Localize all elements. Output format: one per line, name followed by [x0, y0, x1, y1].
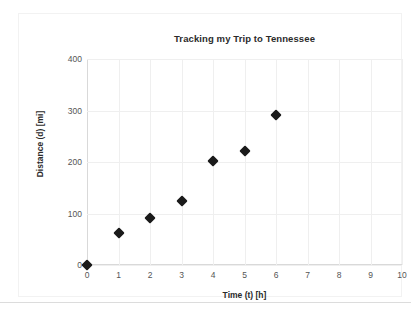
data-point[interactable]: [207, 156, 218, 167]
gridline-vertical: [371, 59, 372, 265]
x-tick-label: 5: [242, 270, 247, 280]
gridline-vertical: [245, 59, 246, 265]
x-tick-label: 10: [397, 270, 406, 280]
y-tick-label: 400: [68, 54, 82, 64]
data-point[interactable]: [81, 259, 92, 270]
data-point[interactable]: [239, 145, 250, 156]
gridline-vertical: [182, 59, 183, 265]
x-tick-label: 7: [305, 270, 310, 280]
gridline-vertical: [339, 59, 340, 265]
y-axis-tick-labels: 0100200300400: [55, 59, 82, 265]
y-axis-title: Distance (d) [mi]: [35, 94, 45, 194]
y-tick-label: 300: [68, 106, 82, 116]
x-tick-label: 8: [337, 270, 342, 280]
y-tick-label: 200: [68, 157, 82, 167]
gridline-vertical: [276, 59, 277, 265]
x-tick-label: 2: [148, 270, 153, 280]
y-tick-label: 100: [68, 209, 82, 219]
x-axis-tick-labels: 012345678910: [87, 270, 402, 284]
gridline-vertical: [308, 59, 309, 265]
x-tick-label: 6: [274, 270, 279, 280]
x-tick-label: 0: [85, 270, 90, 280]
gridline-horizontal: [87, 265, 402, 266]
chart-card: Tracking my Trip to Tennessee 0100200300…: [18, 13, 402, 297]
data-point[interactable]: [113, 227, 124, 238]
x-tick-label: 1: [116, 270, 121, 280]
bottom-divider: [0, 302, 411, 303]
x-tick-label: 3: [179, 270, 184, 280]
plot-area: [87, 59, 402, 265]
x-tick-label: 9: [368, 270, 373, 280]
gridline-vertical: [402, 59, 403, 265]
chart-title: Tracking my Trip to Tennessee: [87, 33, 402, 44]
x-tick-label: 4: [211, 270, 216, 280]
x-axis-title: Time (t) [h]: [87, 290, 402, 300]
data-point[interactable]: [176, 195, 187, 206]
gridline-vertical: [150, 59, 151, 265]
